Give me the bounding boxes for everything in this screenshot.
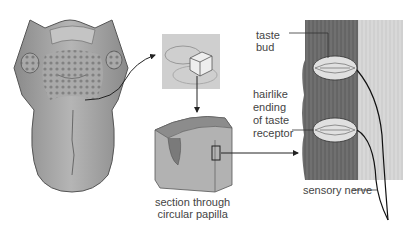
label-line: ending [253, 101, 293, 114]
papilla-section-block [155, 117, 232, 193]
label-line: hairlike [253, 88, 293, 101]
label-sensory-nerve: sensory nerve [303, 184, 372, 196]
label-hairlike-ending: hairlike ending of taste receptor [253, 88, 293, 140]
label-taste-bud: taste bud [256, 29, 280, 53]
tongue-illustration [14, 20, 128, 192]
label-line: taste [256, 29, 280, 41]
label-line: section through [155, 196, 230, 208]
label-line: of taste [253, 114, 293, 127]
label-line: bud [256, 41, 280, 53]
papilla-closeup [162, 34, 220, 89]
label-section: section through circular papilla [155, 196, 230, 220]
taste-diagram: taste bud hairlike ending of taste recep… [0, 0, 413, 228]
label-line: circular papilla [155, 208, 230, 220]
label-line: receptor [253, 127, 293, 140]
